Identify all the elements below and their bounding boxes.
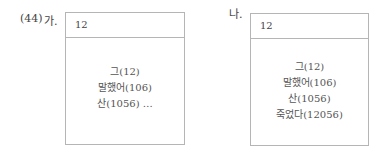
- panel-a-line: 말했어(106): [66, 80, 184, 96]
- panel-a-line: 그(12): [66, 64, 184, 80]
- panel-b-line: 산(1056): [251, 91, 368, 107]
- panel-b-label: 나.: [229, 5, 243, 21]
- panel-a-line: 산(1056) …: [66, 96, 184, 112]
- panel-b-header: 12: [251, 14, 368, 39]
- panel-a-label: 가.: [44, 12, 58, 28]
- panel-b-body: 그(12) 말했어(106) 산(1056) 죽었다(12056): [251, 39, 368, 123]
- panel-a-box: 12 그(12) 말했어(106) 산(1056) …: [65, 12, 185, 145]
- example-number: (44): [20, 12, 43, 25]
- panel-a-body: 그(12) 말했어(106) 산(1056) …: [66, 38, 184, 112]
- panel-b-line: 말했어(106): [251, 75, 368, 91]
- panel-b-line: 그(12): [251, 59, 368, 75]
- panel-b-box: 12 그(12) 말했어(106) 산(1056) 죽었다(12056): [250, 13, 369, 146]
- panel-a-header: 12: [66, 13, 184, 38]
- panel-b-line: 죽었다(12056): [251, 107, 368, 123]
